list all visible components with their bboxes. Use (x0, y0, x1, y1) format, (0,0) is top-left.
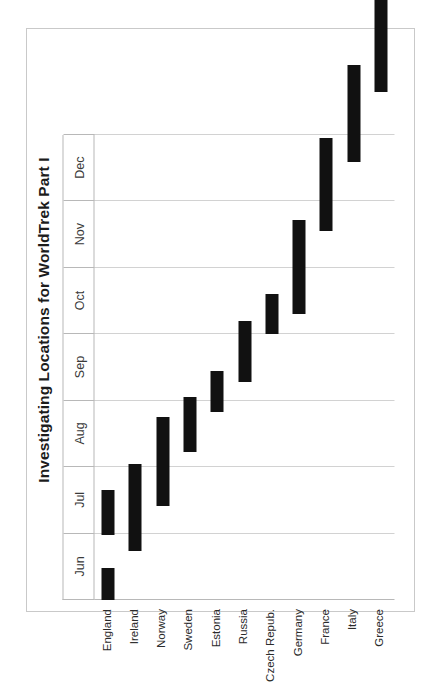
gantt-bar (347, 65, 360, 161)
gantt-bar (101, 568, 114, 600)
gantt-bar (319, 138, 332, 231)
row-label-estonia: Estonia (209, 600, 221, 686)
month-label-nov: Nov (63, 200, 95, 266)
month-label-oct: Oct (63, 267, 95, 333)
row-label-ireland: Ireland (127, 600, 139, 686)
gantt-bar (238, 321, 251, 382)
chart-title: Investigating Locations for WorldTrek Pa… (34, 28, 52, 612)
category-rows: EnglandIrelandNorwaySwedenEstoniaRussiaC… (94, 135, 394, 600)
row-label-greece: Greece (372, 600, 384, 686)
figure-frame: Investigating Locations for WorldTrek Pa… (26, 28, 415, 612)
gantt-bar (101, 490, 114, 535)
gantt-bar (156, 417, 169, 505)
month-label-jun: Jun (63, 533, 95, 599)
row-label-england: England (100, 600, 112, 686)
row-label-russia: Russia (236, 600, 248, 686)
gantt-bar (183, 397, 196, 452)
month-label-sep: Sep (63, 333, 95, 399)
row-label-norway: Norway (154, 600, 166, 686)
month-label-dec: Dec (63, 134, 95, 200)
gantt-bar (265, 294, 278, 334)
row-label-germany: Germany (291, 600, 303, 686)
row-label-france: France (318, 600, 330, 686)
gantt-bar (210, 371, 223, 412)
row-label-sweden: Sweden (181, 600, 193, 686)
gantt-bar (128, 464, 141, 551)
row-label-italy: Italy (345, 600, 357, 686)
row-label-czech-repub: Czech Repub. (263, 600, 275, 686)
gantt-chart: Investigating Locations for WorldTrek Pa… (26, 28, 415, 612)
gantt-bar (374, 0, 387, 92)
month-label-jul: Jul (63, 466, 95, 532)
month-label-aug: Aug (63, 400, 95, 466)
month-axis: JunJulAugSepOctNovDec (62, 135, 94, 600)
gantt-bar (292, 220, 305, 314)
